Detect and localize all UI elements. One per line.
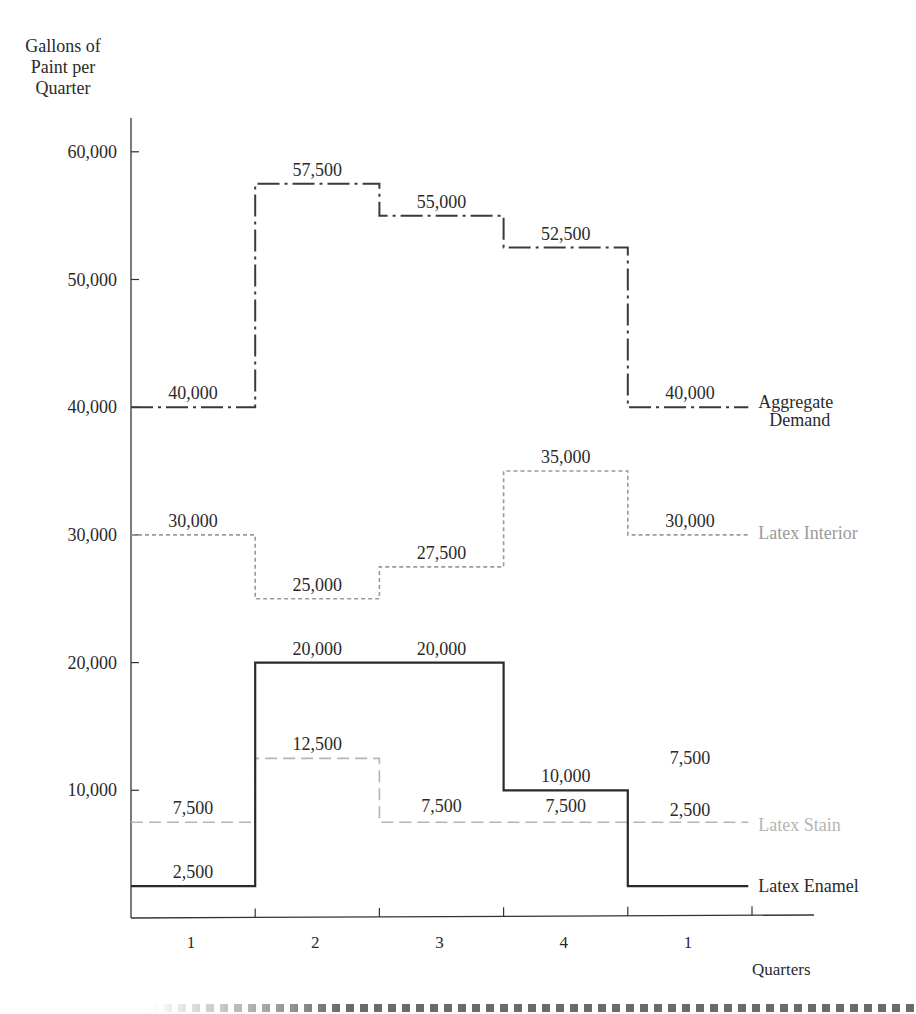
value-label: 10,000 (541, 766, 591, 786)
series-line-latex-interior (131, 471, 748, 599)
value-label: 57,500 (293, 160, 343, 180)
step-chart: 10,00020,00030,00040,00050,00060,0001234… (0, 0, 916, 1014)
value-label: 25,000 (293, 575, 343, 595)
value-label: 12,500 (293, 734, 343, 754)
y-tick-label: 10,000 (68, 780, 118, 800)
y-tick-label: 30,000 (68, 525, 118, 545)
x-tick-label: 4 (559, 933, 568, 952)
value-label: 35,000 (541, 447, 591, 467)
value-label: 2,500 (670, 800, 711, 820)
x-axis-title: Quarters (752, 960, 811, 979)
value-label: 52,500 (541, 224, 591, 244)
value-label: 7,500 (545, 796, 586, 816)
value-label: 2,500 (173, 862, 214, 882)
value-label: 30,000 (665, 511, 715, 531)
series-name-label: Latex Interior (758, 523, 857, 543)
series-name-label: Aggregate (758, 392, 833, 412)
series-line-aggregate-demand (131, 184, 748, 407)
y-tick-label: 60,000 (68, 142, 118, 162)
series-name-label: Demand (769, 410, 830, 430)
value-labels: 40,00057,50055,00052,50040,000AggregateD… (168, 160, 858, 896)
series-name-label: Latex Enamel (758, 876, 858, 896)
series-lines (131, 184, 748, 886)
x-tick-label: 1 (684, 933, 693, 952)
y-tick-label: 50,000 (68, 270, 118, 290)
value-label: 30,000 (168, 511, 218, 531)
value-label: 20,000 (417, 639, 467, 659)
series-name-label: Latex Stain (758, 815, 840, 835)
y-tick-label: 20,000 (68, 653, 118, 673)
value-label: 40,000 (665, 383, 715, 403)
x-tick-label: 1 (187, 933, 196, 952)
y-tick-label: 40,000 (68, 397, 118, 417)
value-label: 7,500 (173, 798, 214, 818)
value-label: 20,000 (293, 639, 343, 659)
x-tick-label: 3 (435, 933, 444, 952)
value-label: 40,000 (168, 383, 218, 403)
x-axis-line (131, 915, 814, 918)
value-label: 27,500 (417, 543, 467, 563)
value-label: 55,000 (417, 192, 467, 212)
value-label: 7,500 (670, 748, 711, 768)
series-line-latex-enamel (131, 663, 748, 886)
value-label: 7,500 (421, 796, 462, 816)
x-tick-label: 2 (311, 933, 320, 952)
page-edge-dashed-band (150, 1004, 916, 1012)
